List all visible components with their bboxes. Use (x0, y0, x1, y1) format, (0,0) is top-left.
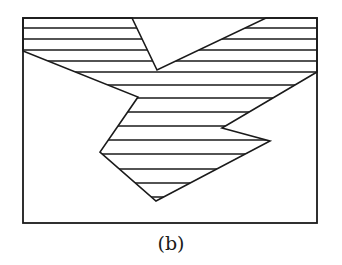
frame-rectangle (23, 18, 317, 223)
figure-caption: (b) (0, 232, 342, 254)
shaded-region-outline (23, 18, 317, 201)
hatched-region-diagram (0, 0, 342, 230)
hatch-lines (23, 28, 317, 197)
